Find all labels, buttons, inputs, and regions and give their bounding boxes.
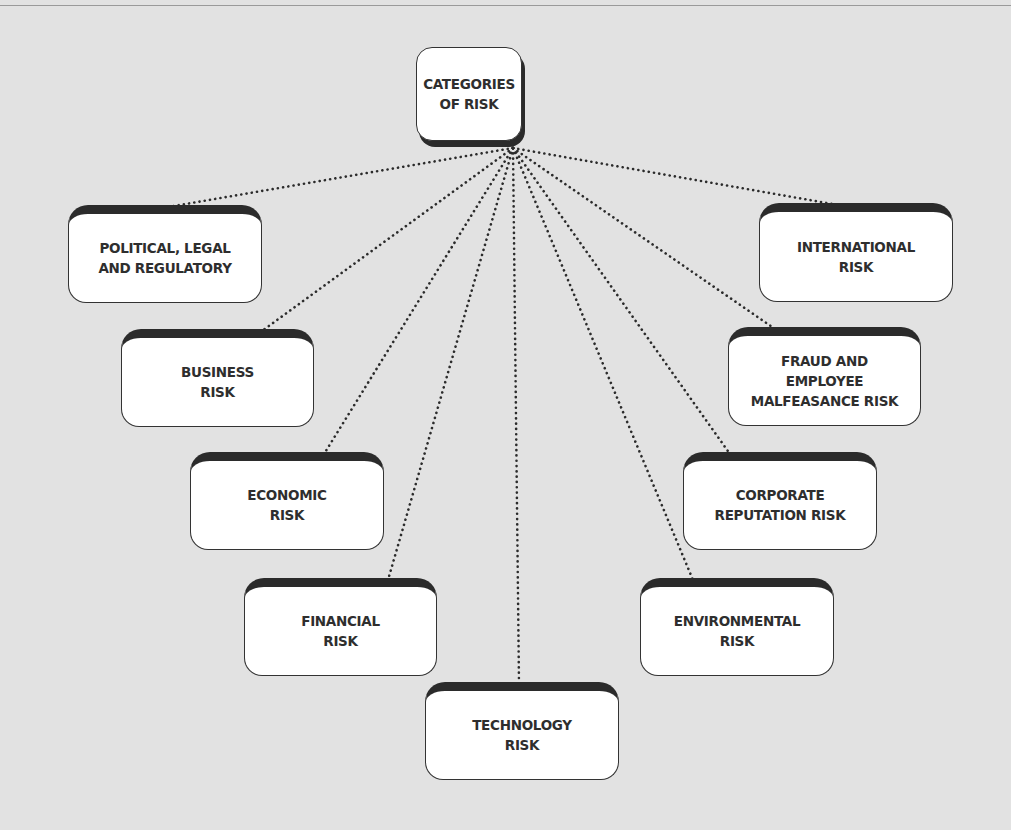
node-label: INTERNATIONAL RISK xyxy=(797,237,915,277)
connector-fraud xyxy=(513,148,775,329)
connector-financial xyxy=(388,148,513,580)
node-economic-risk: ECONOMIC RISK xyxy=(190,452,384,550)
node-environmental-risk: ENVIRONMENTAL RISK xyxy=(640,578,834,676)
root-node-categories-of-risk: CATEGORIES OF RISK xyxy=(416,47,522,141)
node-label: ECONOMIC RISK xyxy=(247,485,326,525)
node-label: CORPORATE REPUTATION RISK xyxy=(715,485,846,525)
connector-economic xyxy=(324,148,513,454)
node-corporate-reputation-risk: CORPORATE REPUTATION RISK xyxy=(683,452,877,550)
node-technology-risk: TECHNOLOGY RISK xyxy=(425,682,619,780)
node-financial-risk: FINANCIAL RISK xyxy=(244,578,437,676)
node-label: TECHNOLOGY RISK xyxy=(472,715,572,755)
node-label: ENVIRONMENTAL RISK xyxy=(674,611,800,651)
connector-international xyxy=(513,148,838,205)
connector-technology xyxy=(513,148,519,684)
node-political-legal-regulatory: POLITICAL, LEGAL AND REGULATORY xyxy=(68,205,262,303)
node-label: POLITICAL, LEGAL AND REGULATORY xyxy=(98,238,231,278)
node-business-risk: BUSINESS RISK xyxy=(121,329,314,427)
node-fraud-employee-malfeasance-risk: FRAUD AND EMPLOYEE MALFEASANCE RISK xyxy=(728,327,921,426)
node-label: BUSINESS RISK xyxy=(181,362,254,402)
node-label: FRAUD AND EMPLOYEE MALFEASANCE RISK xyxy=(751,351,898,411)
node-label: FINANCIAL RISK xyxy=(301,611,380,651)
node-international-risk: INTERNATIONAL RISK xyxy=(759,203,953,302)
root-label: CATEGORIES OF RISK xyxy=(423,74,515,114)
connector-political xyxy=(168,148,513,207)
connector-business xyxy=(262,148,513,331)
